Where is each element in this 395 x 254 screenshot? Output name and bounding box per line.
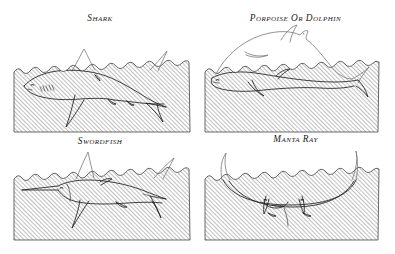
shark-above-water bbox=[72, 49, 167, 71]
marine-animals-drawing bbox=[0, 0, 395, 254]
mantaray-eye-left bbox=[264, 200, 267, 201]
water-surface-shark bbox=[14, 60, 190, 132]
water-body-shark bbox=[14, 60, 190, 132]
illustration-plate: Shark Porpoise or Dolphin Swordfish Mant… bbox=[0, 0, 395, 254]
panel-swordfish bbox=[14, 152, 190, 240]
dolphin-swim-eye bbox=[216, 80, 219, 81]
dolphin-leap-flipper bbox=[245, 52, 268, 57]
panel-shark bbox=[14, 49, 190, 132]
mantaray-eye-right bbox=[301, 200, 304, 201]
panel-mantaray bbox=[205, 151, 379, 240]
swordfish-eye bbox=[60, 188, 63, 189]
panel-dolphin bbox=[205, 25, 379, 132]
dolphin-leap-dorsal-fin bbox=[281, 25, 297, 42]
water-body-dolphin bbox=[205, 60, 379, 132]
dolphin-leap-eye bbox=[303, 33, 304, 34]
shark-eye bbox=[31, 85, 34, 86]
water-surface-dolphin bbox=[205, 60, 379, 132]
